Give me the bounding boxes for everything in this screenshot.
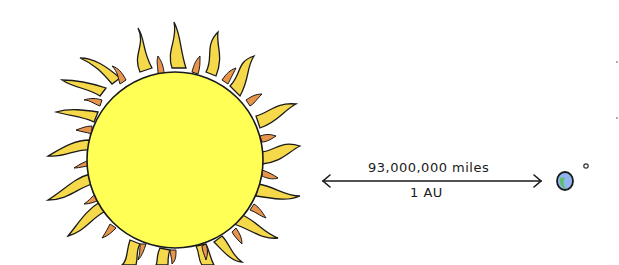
moon (584, 164, 588, 168)
sun-body (87, 72, 263, 248)
edge-mark (616, 61, 618, 63)
earth (557, 172, 573, 190)
sun-earth-distance-diagram (0, 0, 619, 265)
distance-label: 93,000,000 miles (368, 160, 489, 175)
unit-label: 1 AU (410, 185, 443, 200)
edge-mark (616, 117, 618, 119)
